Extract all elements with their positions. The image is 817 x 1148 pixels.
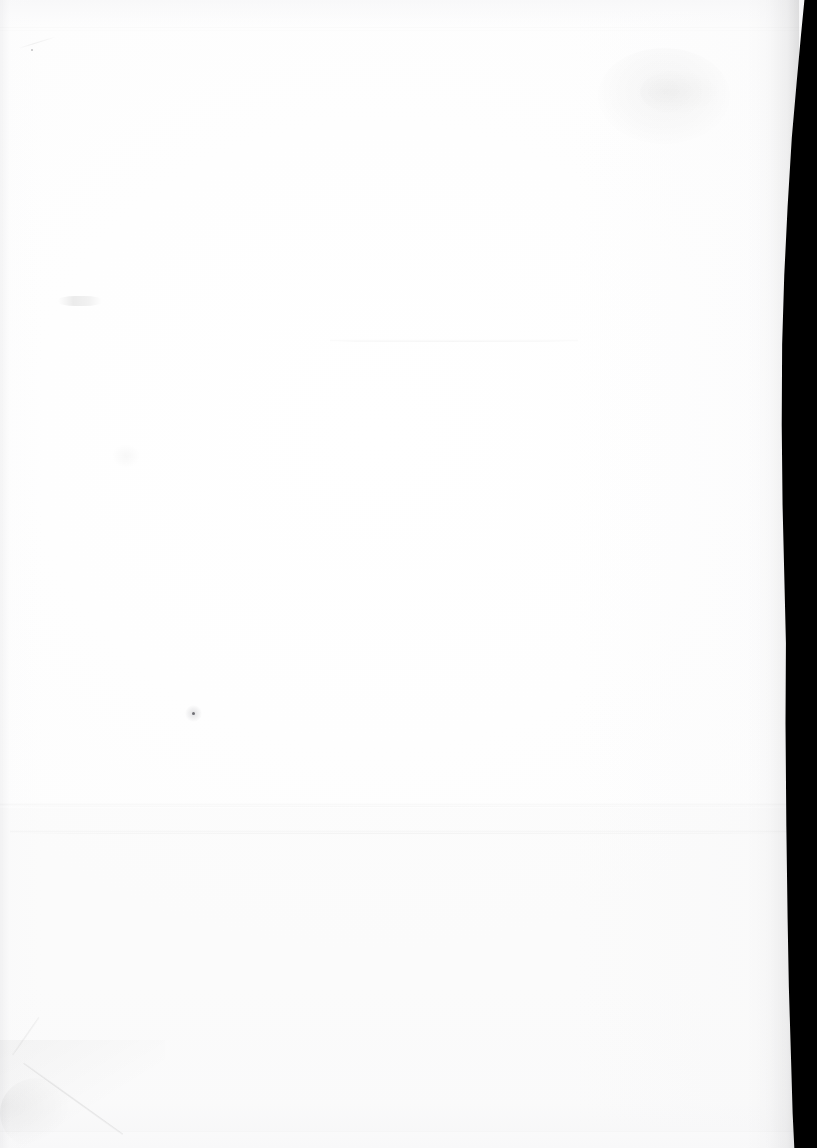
paper-surface — [0, 0, 817, 1148]
scanned-document-page: Blank scanned page — no printed text or … — [0, 0, 817, 1148]
